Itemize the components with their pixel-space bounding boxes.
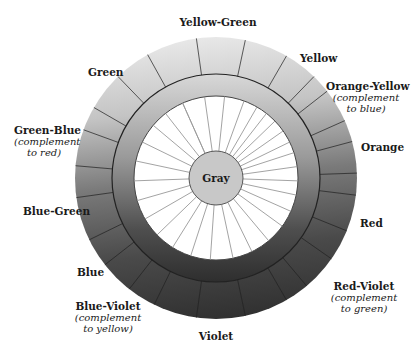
label-orange: Orange bbox=[361, 141, 404, 153]
label-violet: Violet bbox=[186, 330, 246, 342]
label-gray-center: Gray bbox=[196, 172, 236, 184]
label-yellow-green: Yellow-Green bbox=[176, 16, 260, 28]
label-green-blue: Green-Blue (complement to red) bbox=[14, 124, 74, 158]
label-blue: Blue bbox=[77, 266, 104, 278]
note-complement-to-yellow: (complement bbox=[72, 312, 144, 323]
label-red-violet: Red-Violet (complement to green) bbox=[326, 280, 402, 314]
label-orange-yellow: Orange-Yellow (complement to blue) bbox=[326, 80, 406, 114]
label-yellow: Yellow bbox=[300, 52, 337, 64]
note-complement-to-red: (complement bbox=[14, 136, 74, 147]
label-green: Green bbox=[88, 66, 124, 78]
label-blue-green: Blue-Green bbox=[23, 205, 90, 217]
label-red: Red bbox=[360, 217, 383, 229]
note-complement-to-green: (complement bbox=[326, 292, 402, 303]
label-blue-violet: Blue-Violet (complement to yellow) bbox=[72, 300, 144, 334]
note-complement-to-blue: (complement bbox=[326, 92, 406, 103]
